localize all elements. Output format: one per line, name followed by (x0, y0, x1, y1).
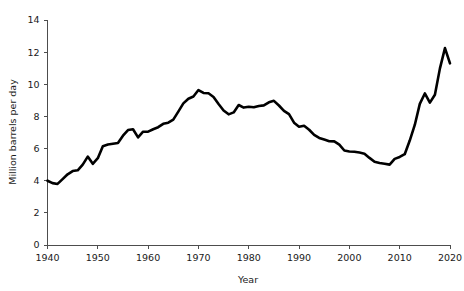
y-axis: 02468101214 (27, 14, 47, 250)
x-tick-label: 1990 (287, 252, 311, 263)
y-tick-label: 0 (33, 239, 39, 250)
x-tick-label: 1940 (35, 252, 59, 263)
x-tick-label: 2000 (337, 252, 361, 263)
x-axis-ticks: 194019501960197019801990200020102020 (35, 245, 462, 263)
x-tick-label: 2010 (388, 252, 412, 263)
x-tick-label: 1970 (186, 252, 210, 263)
x-axis: 194019501960197019801990200020102020 (35, 245, 462, 263)
x-tick-label: 2020 (438, 252, 462, 263)
chart-container: 02468101214 1940195019601970198019902000… (0, 0, 464, 291)
data-series-line (48, 48, 451, 184)
y-tick-label: 6 (33, 143, 39, 154)
y-tick-label: 8 (33, 111, 39, 122)
y-tick-label: 14 (27, 14, 39, 25)
y-axis-title: Million barrels per day (7, 79, 18, 185)
y-tick-label: 10 (27, 79, 39, 90)
x-tick-label: 1980 (237, 252, 261, 263)
y-tick-label: 4 (33, 175, 39, 186)
y-tick-label: 2 (33, 207, 39, 218)
x-axis-title: Year (237, 274, 258, 285)
y-axis-ticks: 02468101214 (27, 14, 47, 250)
y-tick-label: 12 (27, 47, 39, 58)
line-chart: 02468101214 1940195019601970198019902000… (0, 0, 464, 291)
x-tick-label: 1950 (86, 252, 110, 263)
x-tick-label: 1960 (136, 252, 160, 263)
